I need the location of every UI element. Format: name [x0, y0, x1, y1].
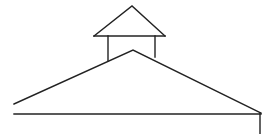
roof-drawing	[0, 0, 279, 134]
cupola-roof	[94, 6, 165, 36]
main-roof	[14, 50, 261, 113]
roof-drawing-canvas	[0, 0, 279, 134]
